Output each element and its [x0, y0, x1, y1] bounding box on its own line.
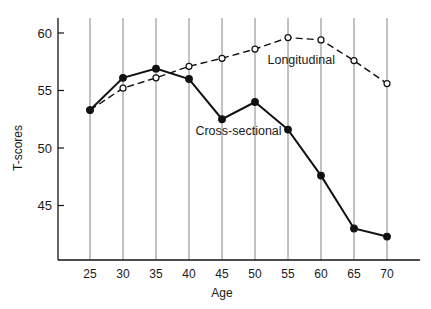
x-tick-label: 65	[347, 267, 361, 281]
data-point	[351, 225, 358, 232]
data-point	[318, 37, 324, 43]
line-chart: 4550556025303540455055606570AgeT-scoresL…	[0, 0, 431, 309]
series-annotation: Cross-sectional	[195, 124, 281, 138]
x-tick-label: 40	[182, 267, 196, 281]
data-point	[87, 107, 94, 114]
data-point	[120, 85, 126, 91]
data-point	[252, 46, 258, 52]
x-tick-label: 50	[248, 267, 262, 281]
y-tick-label: 60	[38, 26, 52, 41]
x-tick-label: 25	[83, 267, 97, 281]
series-annotation: Longitudinal	[267, 53, 334, 67]
y-tick-label: 55	[38, 83, 52, 98]
y-tick-label: 45	[38, 198, 52, 213]
data-point	[153, 75, 159, 81]
data-point	[384, 233, 391, 240]
data-point	[318, 172, 325, 179]
x-axis-label: Age	[211, 286, 233, 300]
y-axis-label: T-scores	[11, 125, 25, 171]
data-point	[186, 76, 193, 83]
x-tick-label: 35	[149, 267, 163, 281]
data-point	[285, 35, 291, 41]
x-tick-label: 60	[314, 267, 328, 281]
x-tick-label: 45	[215, 267, 229, 281]
y-tick-label: 50	[38, 141, 52, 156]
data-point	[252, 99, 259, 106]
data-point	[384, 81, 390, 87]
x-tick-label: 70	[380, 267, 394, 281]
data-point	[153, 65, 160, 72]
data-point	[219, 55, 225, 61]
data-point	[186, 63, 192, 69]
data-point	[285, 126, 292, 133]
data-point	[351, 58, 357, 64]
data-point	[219, 116, 226, 123]
cross-sectional-line	[90, 69, 387, 237]
data-point	[120, 75, 127, 82]
x-tick-label: 30	[116, 267, 130, 281]
x-tick-label: 55	[281, 267, 295, 281]
